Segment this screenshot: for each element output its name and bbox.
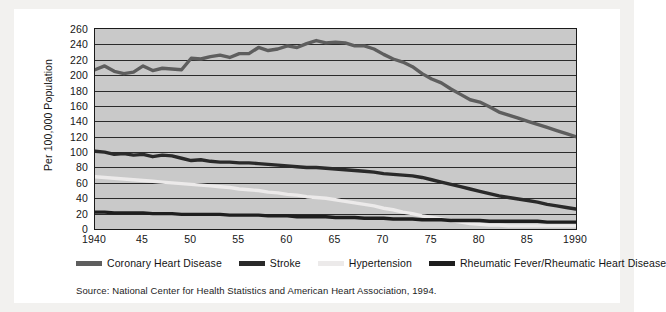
y-axis-tick-label: 140 <box>36 115 88 127</box>
y-axis-tick-label: 160 <box>36 100 88 112</box>
y-axis-tick-label: 220 <box>36 54 88 66</box>
x-axis-tick-label: 65 <box>328 233 340 245</box>
y-axis-tick-label: 60 <box>36 177 88 189</box>
y-axis-tick-label: 40 <box>36 192 88 204</box>
x-axis-tick-label: 45 <box>136 233 148 245</box>
series-line <box>95 41 576 137</box>
line-chart: Per 100,000 Population 26024022020018016… <box>14 9 620 303</box>
legend-swatch <box>429 261 455 266</box>
legend-swatch <box>239 261 265 266</box>
legend-label: Hypertension <box>349 257 412 269</box>
chart-legend: Coronary Heart DiseaseStrokeHypertension… <box>76 255 606 271</box>
x-axis-tick-label: 60 <box>280 233 292 245</box>
legend-item: Rheumatic Fever/Rheumatic Heart Disease <box>429 257 666 269</box>
series-lines <box>95 29 576 229</box>
x-axis-tick-label: 75 <box>425 233 437 245</box>
legend-label: Coronary Heart Disease <box>107 257 222 269</box>
y-axis-tick-label: 240 <box>36 38 88 50</box>
y-axis-tick-label: 260 <box>36 23 88 35</box>
x-axis-tick-label: 80 <box>473 233 485 245</box>
y-axis-tick-label: 180 <box>36 85 88 97</box>
legend-label: Rheumatic Fever/Rheumatic Heart Disease <box>460 257 666 269</box>
y-axis-tick-label: 100 <box>36 146 88 158</box>
x-axis-tick-label: 50 <box>184 233 196 245</box>
x-axis-tick-label: 85 <box>521 233 533 245</box>
x-axis-tick-label: 1940 <box>82 233 106 245</box>
y-axis-tick-label: 80 <box>36 161 88 173</box>
legend-item: Stroke <box>239 257 301 269</box>
legend-swatch <box>76 261 102 266</box>
plot-area <box>94 28 577 230</box>
source-note: Source: National Center for Health Stati… <box>76 285 437 296</box>
x-axis-tick-label: 70 <box>377 233 389 245</box>
legend-item: Coronary Heart Disease <box>76 257 222 269</box>
y-axis-tick-label: 120 <box>36 131 88 143</box>
legend-swatch <box>318 261 344 266</box>
legend-item: Hypertension <box>318 257 412 269</box>
x-axis-tick-label: 1990 <box>563 233 587 245</box>
y-axis-tick-label: 0 <box>36 223 88 235</box>
legend-label: Stroke <box>270 257 301 269</box>
y-axis-tick-label: 200 <box>36 69 88 81</box>
figure-card: Per 100,000 Population 26024022020018016… <box>14 9 620 303</box>
x-axis-tick-label: 55 <box>232 233 244 245</box>
y-axis-tick-label: 20 <box>36 208 88 220</box>
series-line <box>95 212 576 222</box>
x-axis-tick-labels: 19404550556065707580851990 <box>94 233 575 249</box>
